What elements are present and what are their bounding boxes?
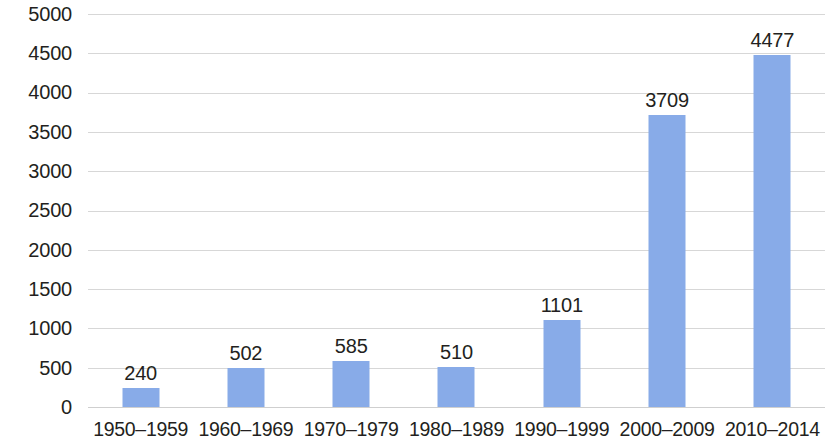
x-tick-label-2000-2009: 2000–2009 (614, 420, 719, 440)
y-tick-label: 5000 (28, 4, 72, 24)
x-tick-label-1950-1959: 1950–1959 (88, 420, 193, 440)
bar-value-label: 585 (335, 336, 368, 356)
x-tick-label-2010-2014: 2010–2014 (720, 420, 825, 440)
y-tick-label: 0 (61, 397, 72, 417)
bar-value-label: 240 (124, 363, 157, 383)
bar-value-label: 502 (230, 343, 263, 363)
y-tick-label: 4000 (28, 82, 72, 102)
bar-slot: 585 (299, 14, 404, 407)
plot-area: 240 502 585 510 1101 3709 (88, 14, 825, 407)
bar-value-label: 1101 (541, 295, 583, 315)
y-tick-label: 3500 (28, 122, 72, 142)
bar-slot: 502 (193, 14, 298, 407)
gridline-0-axis (88, 407, 825, 408)
bar-2010-2014[interactable] (754, 55, 791, 407)
bar-value-label: 510 (440, 342, 473, 362)
bar-chart: 5000 4500 4000 3500 3000 2500 2000 1500 … (0, 0, 833, 446)
bar-value-label: 3709 (645, 90, 689, 110)
y-tick-label: 4500 (28, 43, 72, 63)
x-tick-label-1960-1969: 1960–1969 (193, 420, 298, 440)
bar-1990-1999[interactable] (543, 320, 580, 407)
bar-1980-1989[interactable] (438, 367, 475, 407)
y-tick-label: 2000 (28, 240, 72, 260)
bar-slot: 510 (404, 14, 509, 407)
y-tick-label: 3000 (28, 161, 72, 181)
x-tick-label-1970-1979: 1970–1979 (299, 420, 404, 440)
bar-1950-1959[interactable] (122, 388, 159, 407)
y-tick-label: 1500 (28, 279, 72, 299)
y-tick-label: 500 (39, 358, 72, 378)
bar-slot: 240 (88, 14, 193, 407)
x-tick-label-1980-1989: 1980–1989 (404, 420, 509, 440)
y-tick-label: 2500 (28, 200, 72, 220)
x-tick-label-1990-1999: 1990–1999 (509, 420, 614, 440)
bar-2000-2009[interactable] (649, 115, 686, 407)
bar-value-label: 4477 (750, 30, 794, 50)
bar-1960-1969[interactable] (227, 368, 264, 407)
bar-slot: 4477 (720, 14, 825, 407)
bar-slot: 1101 (509, 14, 614, 407)
y-tick-label: 1000 (28, 318, 72, 338)
bar-slot: 3709 (614, 14, 719, 407)
bar-1970-1979[interactable] (333, 361, 370, 407)
